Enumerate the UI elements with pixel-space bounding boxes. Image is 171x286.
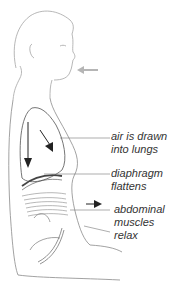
- label-line: muscles: [114, 216, 165, 229]
- head-outline: [13, 11, 75, 100]
- body-outline: [9, 98, 122, 280]
- label-line: diaphragm: [111, 167, 163, 180]
- label-air-drawn-into-lungs: air is drawn into lungs: [111, 130, 167, 156]
- label-abdominal-muscles-relax: abdominal muscles relax: [114, 203, 165, 242]
- label-line: flattens: [111, 180, 163, 193]
- arrow-left-icon: [77, 66, 98, 74]
- label-line: relax: [114, 229, 165, 242]
- abdominal-muscles: [22, 193, 68, 216]
- leg-strokes: [38, 228, 64, 264]
- label-line: into lungs: [111, 143, 167, 156]
- arrow-right-icon: [86, 200, 102, 208]
- arrow-down-right-icon: [40, 130, 53, 152]
- label-diaphragm-flattens: diaphragm flattens: [111, 167, 163, 193]
- label-line: air is drawn: [111, 130, 167, 143]
- arrow-down-icon: [24, 122, 32, 168]
- diaphragm: [22, 175, 62, 190]
- label-line: abdominal: [114, 203, 165, 216]
